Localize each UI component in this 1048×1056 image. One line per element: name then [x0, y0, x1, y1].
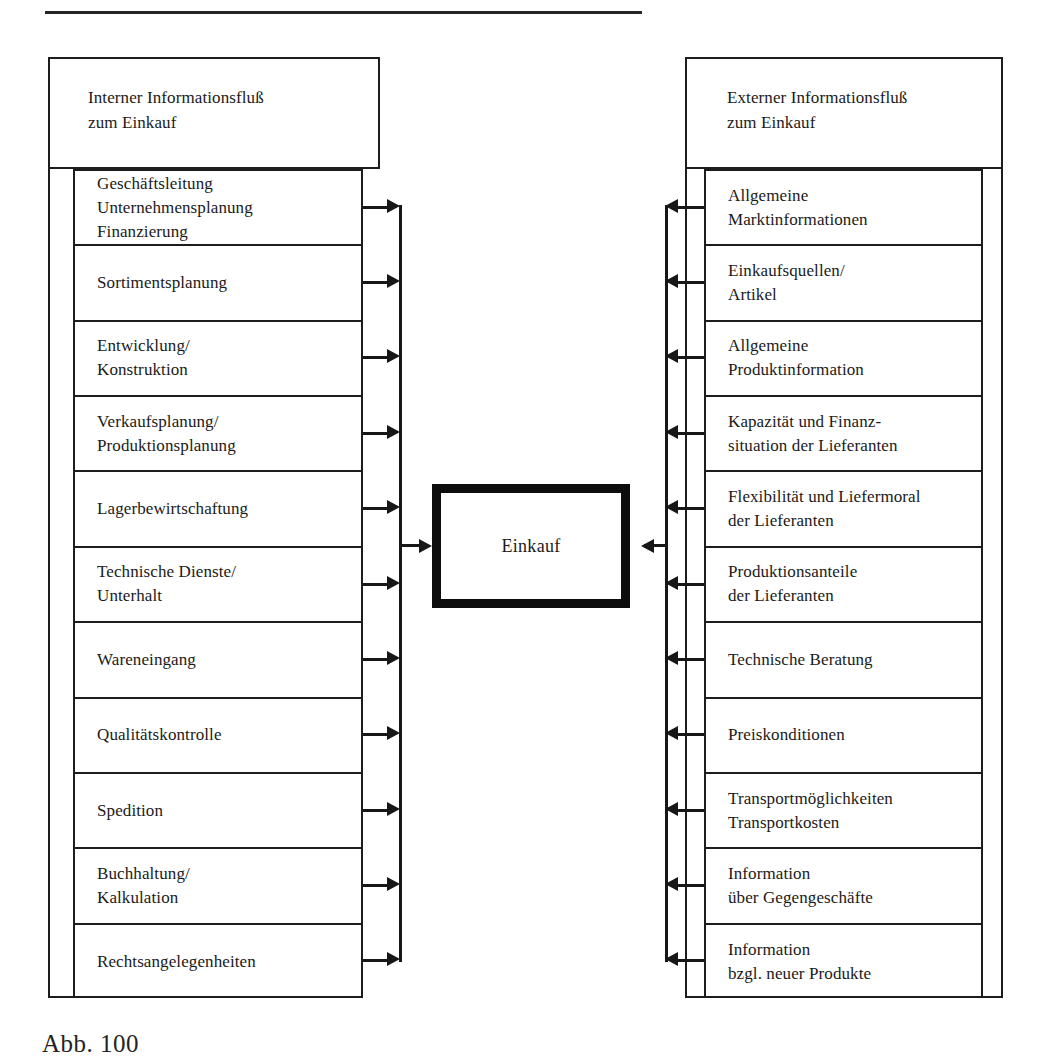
row-label-line: Information: [728, 862, 973, 886]
table-row: Wareneingang: [75, 623, 361, 698]
row-label-line: Transportmöglichkeiten: [728, 787, 973, 811]
row-label-line: der Lieferanten: [728, 584, 973, 608]
row-connector-arrowhead: [665, 802, 678, 816]
row-connector-arrowhead: [387, 349, 400, 363]
row-label: TransportmöglichkeitenTransportkosten: [728, 787, 973, 835]
row-label: Qualitätskontrolle: [97, 723, 353, 747]
row-connector-line: [678, 356, 704, 359]
row-label-line: Rechtsangelegenheiten: [97, 950, 353, 974]
row-label-line: Kapazität und Finanz-: [728, 410, 973, 434]
row-label: Verkaufsplanung/Produktionsplanung: [97, 410, 353, 458]
row-label: Informationüber Gegengeschäfte: [728, 862, 973, 910]
row-connector-arrowhead: [387, 199, 400, 213]
row-label: AllgemeineProduktinformation: [728, 334, 973, 382]
row-connector-line: [678, 733, 704, 736]
table-row: Preiskonditionen: [706, 699, 981, 774]
row-connector-line: [678, 959, 704, 962]
right-column-header-text: Externer Informationsfluß zum Einkauf: [727, 85, 991, 135]
table-row: Sortimentsplanung: [75, 246, 361, 321]
row-label: Spedition: [97, 799, 353, 823]
table-row: Verkaufsplanung/Produktionsplanung: [75, 397, 361, 472]
row-label: Einkaufsquellen/Artikel: [728, 259, 973, 307]
table-row: Lagerbewirtschaftung: [75, 472, 361, 547]
left-main-feed-arrowhead: [419, 539, 432, 553]
row-label-line: Wareneingang: [97, 648, 353, 672]
row-label-line: Produktinformation: [728, 358, 973, 382]
table-row: AllgemeineMarktinformationen: [706, 171, 981, 246]
row-connector-arrowhead: [387, 576, 400, 590]
row-label-line: Lagerbewirtschaftung: [97, 497, 353, 521]
right-main-feed-arrowhead: [641, 539, 654, 553]
row-connector-arrowhead: [387, 500, 400, 514]
row-label-line: Entwicklung/: [97, 334, 353, 358]
row-label-line: Technische Dienste/: [97, 560, 353, 584]
row-label-line: Flexibilität und Liefermoral: [728, 485, 973, 509]
row-connector-line: [678, 507, 704, 510]
row-label-line: Buchhaltung/: [97, 862, 353, 886]
row-label-line: bzgl. neuer Produkte: [728, 962, 973, 986]
row-connector-line: [363, 281, 390, 284]
row-connector-line: [678, 206, 704, 209]
row-connector-line: [363, 733, 390, 736]
table-row: Informationüber Gegengeschäfte: [706, 849, 981, 924]
table-row: TransportmöglichkeitenTransportkosten: [706, 774, 981, 849]
einkauf-center-box: Einkauf: [432, 484, 630, 608]
row-connector-line: [363, 507, 390, 510]
row-label: Preiskonditionen: [728, 723, 973, 747]
row-label-line: über Gegengeschäfte: [728, 886, 973, 910]
row-label-line: Allgemeine: [728, 184, 973, 208]
row-label-line: Unterhalt: [97, 584, 353, 608]
row-label-line: Unternehmensplanung: [97, 196, 353, 220]
row-label-line: Verkaufsplanung/: [97, 410, 353, 434]
row-connector-line: [678, 884, 704, 887]
row-label-line: Produktionsanteile: [728, 560, 973, 584]
row-label-line: Geschäftsleitung: [97, 172, 353, 196]
einkauf-label: Einkauf: [441, 536, 621, 557]
left-column-header-box: Interner Informationsfluß zum Einkauf: [48, 57, 380, 169]
row-label: Informationbzgl. neuer Produkte: [728, 938, 973, 986]
row-label-line: Technische Beratung: [728, 648, 973, 672]
page-top-rule: [45, 11, 642, 14]
row-label-line: Transportkosten: [728, 811, 973, 835]
row-connector-arrowhead: [665, 425, 678, 439]
table-row: Rechtsangelegenheiten: [75, 925, 361, 1000]
table-row: Kapazität und Finanz-situation der Liefe…: [706, 397, 981, 472]
table-row: Informationbzgl. neuer Produkte: [706, 925, 981, 1000]
row-label-line: Marktinformationen: [728, 208, 973, 232]
row-label-line: der Lieferanten: [728, 509, 973, 533]
row-connector-line: [363, 356, 390, 359]
table-row: AllgemeineProduktinformation: [706, 322, 981, 397]
figure-caption: Abb. 100: [42, 1030, 139, 1056]
table-row: Flexibilität und Liefermoralder Lieferan…: [706, 472, 981, 547]
row-label-line: Konstruktion: [97, 358, 353, 382]
row-connector-arrowhead: [387, 651, 400, 665]
row-label-line: Sortimentsplanung: [97, 271, 353, 295]
row-connector-line: [363, 432, 390, 435]
row-label-line: Spedition: [97, 799, 353, 823]
row-label-line: Produktionsplanung: [97, 434, 353, 458]
left-column-row-stack: GeschäftsleitungUnternehmensplanungFinan…: [73, 169, 363, 998]
left-column-header-text: Interner Informationsfluß zum Einkauf: [88, 85, 368, 135]
row-connector-line: [678, 583, 704, 586]
right-column-row-stack: AllgemeineMarktinformationenEinkaufsquel…: [704, 169, 983, 998]
table-row: GeschäftsleitungUnternehmensplanungFinan…: [75, 171, 361, 246]
row-label: Lagerbewirtschaftung: [97, 497, 353, 521]
table-row: Technische Dienste/Unterhalt: [75, 548, 361, 623]
row-label: Wareneingang: [97, 648, 353, 672]
row-label: Buchhaltung/Kalkulation: [97, 862, 353, 910]
row-label-line: Qualitätskontrolle: [97, 723, 353, 747]
table-row: Produktionsanteileder Lieferanten: [706, 548, 981, 623]
row-connector-arrowhead: [387, 802, 400, 816]
row-label-line: situation der Lieferanten: [728, 434, 973, 458]
row-label-line: Kalkulation: [97, 886, 353, 910]
left-main-feed-line: [399, 544, 421, 547]
row-connector-arrowhead: [665, 576, 678, 590]
row-connector-arrowhead: [387, 274, 400, 288]
row-connector-line: [678, 281, 704, 284]
row-label: Technische Beratung: [728, 648, 973, 672]
row-connector-arrowhead: [387, 877, 400, 891]
row-connector-arrowhead: [665, 877, 678, 891]
row-label: Entwicklung/Konstruktion: [97, 334, 353, 382]
row-connector-line: [363, 206, 390, 209]
